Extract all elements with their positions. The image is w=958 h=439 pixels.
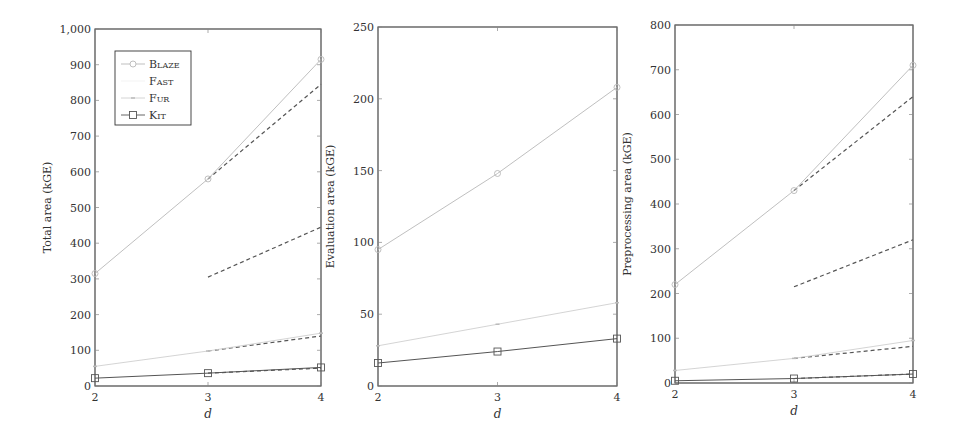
figure-canvas: 01002003004005006007008009001,000234dTot… [0,0,958,439]
square-marker-icon [130,112,137,119]
x-tick-label: 2 [375,391,382,404]
y-tick-label: 200 [650,288,671,301]
y-tick-label: 800 [650,19,671,32]
extrapolation-line [794,97,913,191]
y-tick-label: 700 [650,64,671,77]
plot-frame [675,25,913,383]
y-tick-label: 400 [650,198,671,211]
plot-2: 050100150200250234dEvaluation area (kGE) [324,21,621,421]
y-tick-label: 100 [70,344,91,357]
series-blaze-line [675,65,913,284]
plot-frame [378,27,617,386]
y-tick-label: 100 [650,332,671,345]
legend-label-fur: Fur [149,92,170,105]
plot-3: 0100200300400500600700800234dPreprocessi… [621,19,917,418]
y-tick-label: 200 [70,309,91,322]
x-tick-label: 3 [494,391,501,404]
x-tick-label: 4 [910,388,917,401]
y-tick-label: 800 [70,94,91,107]
y-tick-label: 0 [84,380,91,393]
y-tick-label: 300 [70,273,91,286]
x-tick-label: 2 [92,391,99,404]
y-tick-label: 100 [353,236,374,249]
y-tick-label: 50 [360,308,374,321]
y-tick-label: 0 [664,377,671,390]
y-tick-label: 900 [70,59,91,72]
y-tick-label: 250 [353,21,374,34]
y-tick-label: 0 [367,380,374,393]
y-tick-label: 400 [70,237,91,250]
y-tick-label: 600 [650,109,671,122]
x-tick-label: 2 [672,388,679,401]
y-axis-label: Total area (kGE) [41,162,54,254]
y-axis-label: Preprocessing area (kGE) [621,132,634,276]
legend-label-blaze: Blaze [149,58,180,71]
y-tick-label: 200 [353,93,374,106]
x-tick-label: 4 [318,391,325,404]
circle-marker-icon [130,61,136,67]
x-axis-label: d [494,407,502,421]
legend-label-fast: Fast [149,75,174,88]
legend-label-kit: Kit [149,109,166,122]
series-kit-line [378,339,617,363]
x-tick-label: 3 [205,391,212,404]
y-tick-label: 700 [70,130,91,143]
legend: BlazeFastFurKit [115,51,191,125]
series-fur-line [95,333,321,366]
extrapolation-line [794,346,913,358]
x-axis-label: d [204,407,212,421]
y-tick-label: 1,000 [60,23,92,36]
y-axis-label: Evaluation area (kGE) [324,145,337,269]
extrapolation-line [794,240,913,287]
extrapolation-line [208,84,321,179]
series-blaze-line [378,87,617,249]
y-tick-label: 150 [353,165,374,178]
x-tick-label: 3 [791,388,798,401]
x-axis-label: d [790,404,798,418]
x-tick-label: 4 [614,391,621,404]
y-tick-label: 600 [70,166,91,179]
y-tick-label: 300 [650,243,671,256]
y-tick-label: 500 [70,202,91,215]
series-fur-line [675,340,913,370]
y-tick-label: 500 [650,153,671,166]
extrapolation-line [208,227,321,277]
